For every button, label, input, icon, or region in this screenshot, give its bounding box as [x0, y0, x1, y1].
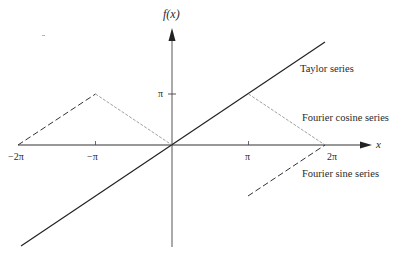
taylor-series-label: Taylor series: [300, 63, 354, 74]
x-tick-label-neg-2pi: −2π: [8, 151, 24, 162]
y-axis-label: f(x): [163, 7, 180, 21]
taylor-series-line: [21, 42, 325, 246]
fourier-sine-series-label: Fourier sine series: [302, 168, 379, 179]
y-tick-label-pi: π: [158, 88, 163, 99]
x-axis: [18, 141, 372, 149]
x-tick-label-neg-pi: −π: [87, 151, 98, 162]
y-axis: [168, 28, 176, 247]
fourier-comparison-diagram: ¨ f(x) x −2π −π π 2π π Taylor series Fou…: [0, 0, 398, 259]
y-axis-arrow-icon: [169, 28, 176, 41]
stray-mark: ¨: [42, 32, 45, 42]
x-axis-label: x: [375, 138, 381, 150]
fourier-cosine-series-label: Fourier cosine series: [302, 112, 389, 123]
x-tick-label-pi: π: [245, 151, 250, 162]
x-tick-label-2pi: 2π: [327, 151, 337, 162]
x-axis-arrow-icon: [360, 142, 372, 149]
